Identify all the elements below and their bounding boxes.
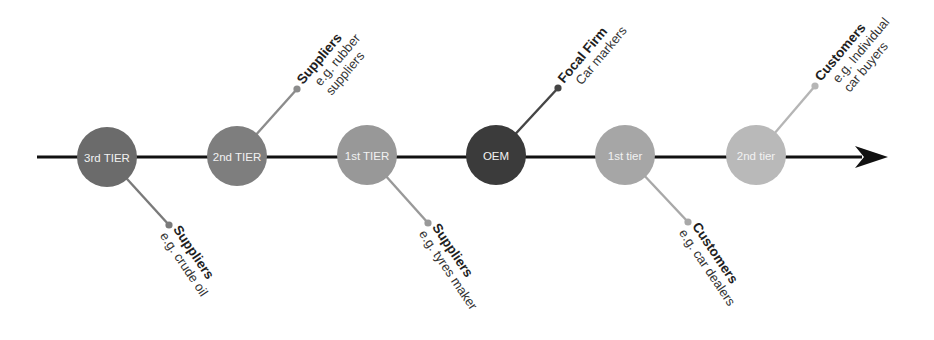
callout-first-tier-supplier: Supplierse.g. tyres maker xyxy=(367,155,493,313)
tier-label: 3rd TIER xyxy=(84,152,130,164)
node-first-tier-customer: 1st tier xyxy=(595,125,655,185)
tier-label: 1st tier xyxy=(608,150,643,162)
callout-text: Supplierse.g. rubbersuppliers xyxy=(294,21,375,106)
callout-text: Customerse.g. car dealers xyxy=(676,218,751,309)
node-first-tier-supplier: 1st TIER xyxy=(337,125,397,185)
connector-dot-icon xyxy=(811,82,818,89)
node-third-tier-supplier: 3rd TIER xyxy=(77,127,137,187)
tier-label: 2nd TIER xyxy=(213,151,261,163)
connector-dot-icon xyxy=(165,221,172,228)
callout-text: Customerse.g. Individualcar buyers xyxy=(812,5,904,102)
callout-text: Supplierse.g. crude oil xyxy=(157,221,223,299)
connector-dot-icon xyxy=(684,218,691,225)
connector-dot-icon xyxy=(554,84,561,91)
tier-label: 1st TIER xyxy=(345,150,390,162)
connector-dot-icon xyxy=(293,85,300,92)
connector-dot-icon xyxy=(424,219,431,226)
callout-text: Supplierse.g. tyres maker xyxy=(416,219,493,313)
callout-second-tier-customer: Customerse.g. Individualcar buyers xyxy=(756,5,904,155)
tier-label: OEM xyxy=(483,150,509,162)
node-oem: OEM xyxy=(466,125,526,185)
node-second-tier-customer: 2nd tier xyxy=(726,125,786,185)
supply-chain-diagram: Supplierse.g. crude oilSupplierse.g. rub… xyxy=(0,0,934,340)
node-second-tier-supplier: 2nd TIER xyxy=(207,126,267,186)
tier-label: 2nd tier xyxy=(737,150,776,162)
callout-text: Focal FirmCar markers xyxy=(555,13,630,95)
